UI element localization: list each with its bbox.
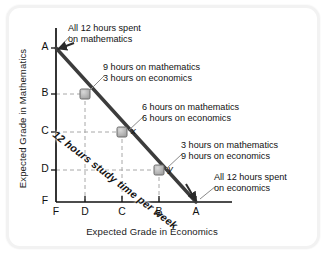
annotation-line-2: 6 hours on economics — [142, 113, 239, 124]
annotation-all-hours-mathematics: All 12 hours spent on mathematics — [68, 23, 141, 46]
annotation-point-x: 6 hours on mathematics 6 hours on econom… — [142, 102, 239, 125]
annotation-point-y: 3 hours on mathematics 9 hours on econom… — [181, 140, 278, 163]
y-axis-title: Expected Grade in Mathematics — [17, 34, 28, 204]
annotation-line-1: 3 hours on mathematics — [181, 140, 278, 151]
x-tick-label-b: B — [152, 206, 166, 217]
annotation-line-1: All 12 hours spent — [68, 23, 141, 34]
annotation-all-hours-economics: All 12 hours spent on economics — [214, 172, 287, 195]
annotation-line-2: 9 hours on economics — [181, 151, 278, 162]
annotation-line-1: 9 hours on mathematics — [103, 62, 200, 73]
x-tick-label-c: C — [115, 206, 129, 217]
annotation-line-1: All 12 hours spent — [214, 172, 287, 183]
x-tick-label-f: F — [49, 206, 63, 217]
marker-point-b[interactable] — [80, 89, 90, 99]
annotation-line-2: on economics — [214, 183, 287, 194]
y-tick-label-d: D — [38, 163, 52, 174]
marker-point-x[interactable] — [117, 127, 127, 137]
x-tick-label-d: D — [78, 206, 92, 217]
y-tick-label-a: A — [38, 41, 52, 52]
x-tick-label-a: A — [189, 206, 203, 217]
marker-point-y[interactable] — [154, 165, 164, 175]
annotation-line-2: on mathematics — [68, 34, 141, 45]
y-tick-label-f: F — [38, 195, 52, 206]
annotation-line-2: 3 hours on economics — [103, 73, 200, 84]
y-tick-label-b: B — [38, 87, 52, 98]
annotation-point-b: 9 hours on mathematics 3 hours on econom… — [103, 62, 200, 85]
y-tick-label-c: C — [38, 125, 52, 136]
point-label-x: x — [131, 125, 136, 136]
x-axis-title: Expected Grade in Economics — [57, 226, 247, 237]
annotation-line-1: 6 hours on mathematics — [142, 102, 239, 113]
chart-screenshot: 12 hours study time per week Expected Gr… — [0, 0, 328, 257]
point-label-y: y — [168, 163, 173, 174]
